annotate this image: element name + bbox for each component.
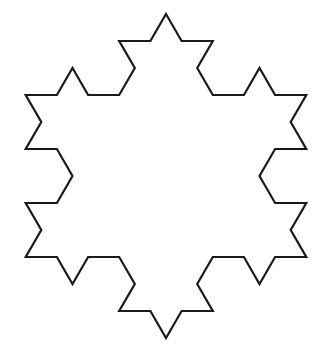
koch-snowflake-canvas	[0, 0, 332, 349]
koch-snowflake-outline	[26, 14, 307, 338]
